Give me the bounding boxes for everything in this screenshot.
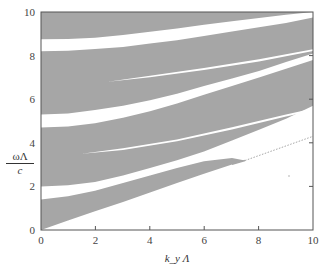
plot-area [41, 12, 313, 230]
y-tick-labels: 0 2 4 6 8 10 [24, 6, 36, 236]
svg-text:2: 2 [93, 234, 99, 246]
svg-text:6: 6 [30, 93, 36, 105]
svg-text:6: 6 [201, 234, 207, 246]
y-axis-label: ωΛ c [6, 150, 34, 176]
svg-text:2: 2 [30, 180, 36, 192]
light-line-dotted [245, 136, 313, 160]
x-axis-label: k_y Λ [165, 252, 190, 264]
svg-text:8: 8 [30, 50, 36, 62]
svg-text:0: 0 [38, 234, 44, 246]
y-axis-label-denominator: c [6, 164, 34, 176]
svg-text:0: 0 [30, 224, 36, 236]
svg-text:10: 10 [308, 234, 320, 246]
svg-text:4: 4 [147, 234, 153, 246]
svg-text:10: 10 [24, 6, 36, 18]
svg-text:8: 8 [256, 234, 262, 246]
band-structure-chart: 0 2 4 6 8 10 0 2 4 6 8 10 k_y Λ [0, 0, 324, 268]
y-axis-label-numerator: ωΛ [6, 150, 34, 164]
x-tick-labels: 0 2 4 6 8 10 [38, 234, 319, 246]
stray-mark [288, 175, 289, 176]
svg-text:4: 4 [30, 137, 36, 149]
x-axis [95, 226, 258, 230]
